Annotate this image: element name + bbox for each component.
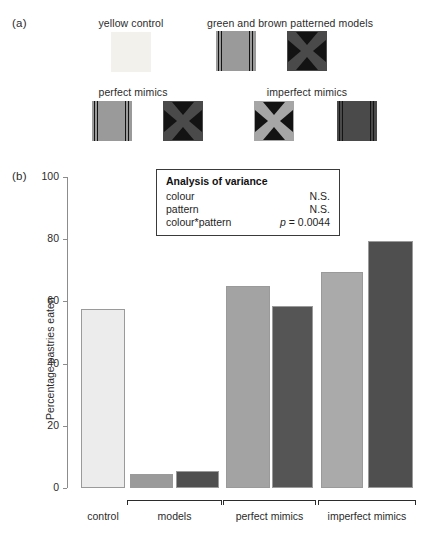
group-bracket: [127, 500, 222, 506]
bracket-line: [318, 500, 416, 501]
anova-term-colour: colour: [166, 190, 195, 203]
bracket-line: [127, 500, 222, 501]
anova-p-value: = 0.0044: [286, 216, 330, 228]
y-tick: [63, 488, 67, 489]
anova-title: Analysis of variance: [166, 175, 330, 187]
y-tick: [63, 177, 67, 178]
bar-chart: 020406080100 Percentage pastries eaten c…: [0, 0, 427, 546]
y-tick-label: 20: [25, 419, 59, 431]
y-tick-label: 80: [25, 232, 59, 244]
anova-value-pattern: N.S.: [310, 203, 330, 216]
anova-row: colour*pattern p = 0.0044: [166, 216, 330, 229]
anova-value-colour-pattern: p = 0.0044: [280, 216, 330, 229]
bracket-cap-right: [415, 500, 416, 505]
bracket-cap-right: [315, 500, 316, 505]
y-tick-label: 100: [25, 170, 59, 182]
bracket-cap-left: [318, 500, 319, 505]
y-tick: [63, 426, 67, 427]
y-tick: [63, 364, 67, 365]
figure-root: (a) yellow control green and brown patte…: [0, 0, 427, 546]
bar-brown-perfect-mimic: [272, 306, 313, 488]
bracket-cap-right: [221, 500, 222, 505]
bar-green-model: [130, 474, 173, 488]
bracket-line: [223, 500, 316, 501]
y-tick-label: 0: [25, 481, 59, 493]
bar-brown-imperfect-mimic: [368, 241, 413, 488]
bracket-cap-left: [223, 500, 224, 505]
y-axis-line: [67, 177, 68, 488]
y-tick: [63, 301, 67, 302]
anova-term-colour-pattern: colour*pattern: [166, 216, 231, 229]
bar-brown-model: [176, 471, 219, 488]
group-bracket: [223, 500, 316, 506]
bracket-cap-left: [127, 500, 128, 505]
anova-row: colour N.S.: [166, 190, 330, 203]
x-group-label-imperfect-mimics: imperfect mimics: [298, 510, 427, 522]
bar-green-perfect-mimic: [226, 286, 270, 488]
anova-value-colour: N.S.: [310, 190, 330, 203]
group-bracket: [318, 500, 416, 506]
bar-yellow-control: [81, 309, 125, 488]
anova-legend-box: Analysis of variance colour N.S. pattern…: [156, 169, 340, 236]
anova-term-pattern: pattern: [166, 203, 199, 216]
bar-green-imperfect-mimic: [321, 272, 363, 488]
anova-row: pattern N.S.: [166, 203, 330, 216]
y-tick: [63, 239, 67, 240]
y-axis-title: Percentage pastries eaten: [44, 297, 56, 420]
